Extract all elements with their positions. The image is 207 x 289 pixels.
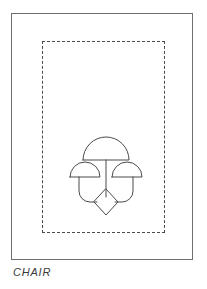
left-stem-icon (79, 177, 97, 202)
patent-drawing-page: CHAIR (0, 0, 207, 289)
figure-caption: CHAIR (13, 266, 51, 278)
drawing-sheet-border (11, 13, 193, 260)
top-canopy-icon (83, 137, 129, 160)
right-stem-icon (115, 177, 133, 202)
chair-figure (68, 127, 144, 217)
right-canopy-icon (112, 162, 142, 177)
left-canopy-icon (70, 162, 100, 177)
